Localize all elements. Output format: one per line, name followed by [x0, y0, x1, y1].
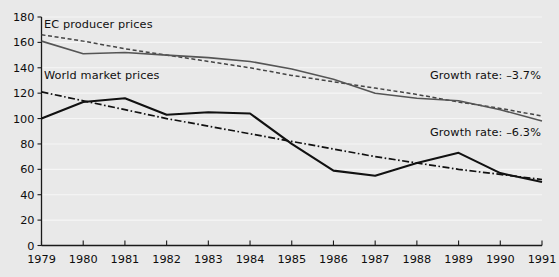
series-label-world-market-prices: World market prices — [44, 69, 160, 82]
line-chart: 020406080100120140160180 197919801981198… — [0, 0, 559, 277]
x-tick-label: 1986 — [319, 253, 348, 266]
series-label-ec-producer-prices: EC producer prices — [44, 18, 153, 31]
x-tick-label: 1981 — [111, 253, 140, 266]
growth-rate-label-world: Growth rate: –6.3% — [430, 126, 541, 139]
x-tick-label: 1979 — [27, 253, 56, 266]
x-tick-label: 1989 — [444, 253, 473, 266]
y-tick-label: 100 — [13, 113, 35, 126]
data-series-group — [42, 35, 543, 182]
x-axis-ticks: 1979198019811982198319841985198619871988… — [27, 241, 556, 266]
x-tick-label: 1991 — [528, 253, 557, 266]
y-tick-label: 180 — [13, 11, 35, 24]
x-tick-label: 1988 — [403, 253, 432, 266]
y-tick-label: 140 — [13, 62, 35, 75]
growth-rate-label-ec: Growth rate: –3.7% — [430, 69, 541, 82]
y-tick-label: 80 — [20, 138, 34, 151]
x-tick-label: 1984 — [236, 253, 265, 266]
y-tick-label: 60 — [20, 163, 34, 176]
x-tick-label: 1987 — [361, 253, 390, 266]
y-tick-label: 40 — [20, 189, 34, 202]
y-tick-label: 0 — [27, 240, 34, 253]
x-tick-label: 1983 — [194, 253, 223, 266]
x-tick-label: 1985 — [277, 253, 306, 266]
y-tick-label: 20 — [20, 214, 34, 227]
x-tick-label: 1982 — [152, 253, 181, 266]
y-tick-label: 120 — [13, 87, 35, 100]
x-tick-label: 1980 — [69, 253, 98, 266]
x-tick-label: 1990 — [486, 253, 515, 266]
y-axis-ticks: 020406080100120140160180 — [13, 11, 42, 253]
y-tick-label: 160 — [13, 36, 35, 49]
